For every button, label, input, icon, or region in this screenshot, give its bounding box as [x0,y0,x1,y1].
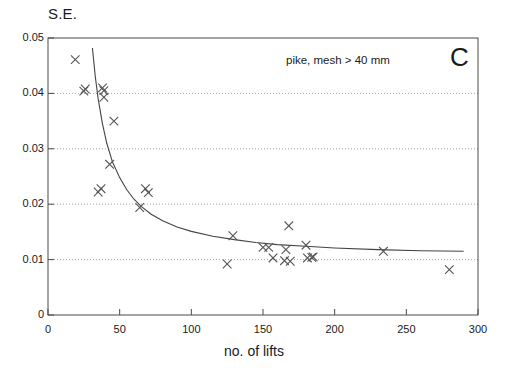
chart-annotation: pike, mesh > 40 mm [286,55,390,67]
x-tick-label: 50 [98,323,142,335]
panel-label: C [450,44,469,70]
x-tick-label: 0 [26,323,70,335]
x-tick-label: 300 [456,323,500,335]
chart-figure: 00.010.020.030.040.05 050100150200250300… [0,0,508,371]
x-tick-label: 200 [313,323,357,335]
x-axis-title: no. of lifts [0,344,508,358]
x-axis-tick-labels: 050100150200250300 [0,0,508,371]
y-axis-title: S.E. [48,6,77,21]
x-tick-label: 150 [241,323,285,335]
x-tick-label: 250 [384,323,428,335]
x-tick-label: 100 [169,323,213,335]
